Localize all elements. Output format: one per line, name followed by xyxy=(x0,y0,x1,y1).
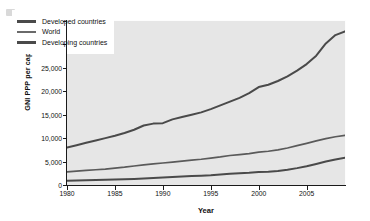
x-tick-mark xyxy=(115,186,116,190)
y-tick-label: 20,000 xyxy=(28,88,62,95)
y-tick-mark xyxy=(63,68,67,69)
legend-swatch-developing xyxy=(17,41,36,44)
y-tick-label: 25,000 xyxy=(28,64,62,71)
legend-swatch-world xyxy=(17,31,36,33)
legend-swatch-developed xyxy=(17,20,36,23)
x-axis-spine xyxy=(66,185,346,186)
y-tick-label: 0 xyxy=(28,182,62,189)
x-tick-label: 1990 xyxy=(155,190,170,197)
x-tick-label: 1980 xyxy=(59,190,74,197)
y-tick-mark xyxy=(63,138,67,139)
x-tick-label: 1995 xyxy=(203,190,218,197)
y-tick-label: 5,000 xyxy=(28,158,62,165)
chart-legend: Developed countries World Developing cou… xyxy=(12,10,114,54)
x-tick-mark xyxy=(259,186,260,190)
y-tick-mark xyxy=(63,115,67,116)
y-tick-mark xyxy=(63,91,67,92)
x-tick-mark xyxy=(307,186,308,190)
x-tick-mark xyxy=(67,186,68,190)
x-axis-title: Year xyxy=(66,206,346,215)
legend-label-world: World xyxy=(42,28,60,36)
y-tick-mark xyxy=(63,44,67,45)
y-tick-label: 15,000 xyxy=(28,111,62,118)
x-tick-label: 2000 xyxy=(251,190,266,197)
x-tick-label: 2005 xyxy=(299,190,314,197)
y-tick-mark xyxy=(63,162,67,163)
y-tick-mark xyxy=(63,21,67,22)
legend-label-developed: Developed countries xyxy=(42,18,106,26)
x-tick-mark xyxy=(211,186,212,190)
x-tick-mark xyxy=(163,186,164,190)
y-tick-label: 10,000 xyxy=(28,135,62,142)
x-tick-label: 1985 xyxy=(107,190,122,197)
chart-figure: GNI PPP per capita ( US $) 05,00010,0001… xyxy=(0,0,370,221)
y-tick-mark xyxy=(63,185,67,186)
legend-item-world: World xyxy=(17,28,107,36)
legend-label-developing: Developing countries xyxy=(42,39,107,47)
